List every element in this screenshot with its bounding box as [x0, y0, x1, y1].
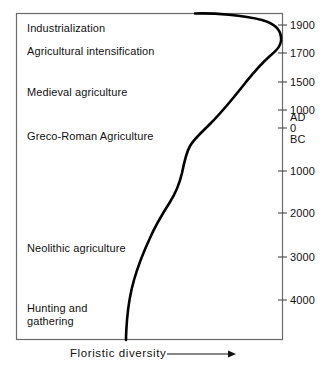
- era-label-greco-roman-agriculture: Greco-Roman Agriculture: [27, 130, 153, 143]
- era-label-hunting-and-gathering: Hunting and gathering: [27, 302, 87, 327]
- y-tick-label-1900: 1900: [290, 19, 315, 31]
- y-tick-label-bc-marker: BC: [290, 133, 305, 145]
- era-label-industrialization: Industrialization: [27, 22, 105, 35]
- x-axis-arrow: [167, 351, 236, 358]
- era-label-medieval-agriculture: Medieval agriculture: [27, 86, 127, 99]
- floristic-diversity-chart: Industrialization Agricultural intensifi…: [0, 0, 326, 366]
- y-tick-label-1000-bc: 1000: [290, 165, 315, 177]
- era-label-agricultural-intensification: Agricultural intensification: [27, 45, 155, 58]
- y-tick-label-2000-bc: 2000: [290, 207, 315, 219]
- y-tick-label-1500: 1500: [290, 76, 315, 88]
- diversity-curve: [126, 13, 281, 340]
- y-tick-label-1700: 1700: [290, 47, 315, 59]
- plot-frame: [17, 14, 283, 340]
- y-tick-label-3000-bc: 3000: [290, 251, 315, 263]
- era-label-neolithic-agriculture: Neolithic agriculture: [27, 242, 126, 255]
- x-axis-title: Floristic diversity: [70, 347, 166, 359]
- y-tick-label-4000-bc: 4000: [290, 294, 315, 306]
